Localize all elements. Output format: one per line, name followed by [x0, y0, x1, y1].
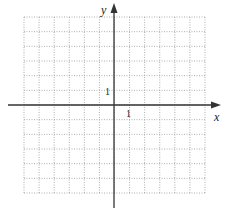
x-axis-label: x: [213, 110, 220, 124]
y-tick-label-1: 1: [105, 86, 110, 97]
y-axis-arrow-icon: [111, 3, 118, 13]
coordinate-plane: x y 1 1: [0, 0, 239, 214]
x-axis-arrow-icon: [211, 102, 221, 109]
y-axis-label: y: [100, 3, 107, 17]
x-tick-label-1: 1: [126, 108, 131, 119]
